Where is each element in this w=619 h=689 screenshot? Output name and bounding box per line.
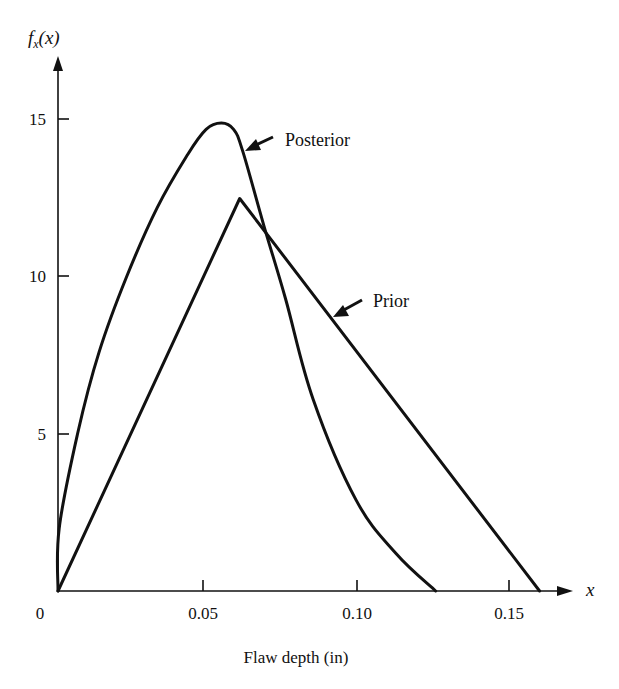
prior-label: Prior bbox=[373, 291, 409, 311]
y-tick-label-5: 5 bbox=[38, 425, 47, 444]
y-axis-arrow-icon bbox=[53, 56, 63, 71]
posterior-label: Posterior bbox=[285, 130, 350, 150]
x-axis-title: Flaw depth (in) bbox=[244, 648, 349, 667]
x-tick-label-0.10: 0.10 bbox=[342, 604, 372, 623]
prior-annotation: Prior bbox=[333, 291, 409, 317]
origin-label: 0 bbox=[36, 604, 45, 623]
posterior-annotation: Posterior bbox=[245, 130, 350, 151]
y-axis-title: fx(x) bbox=[28, 27, 60, 51]
posterior-arrow-icon bbox=[245, 139, 261, 151]
x-axis-symbol: x bbox=[585, 579, 595, 600]
prior-curve bbox=[58, 199, 540, 592]
x-tick-label-0.05: 0.05 bbox=[188, 604, 218, 623]
y-tick-label-15: 15 bbox=[29, 110, 46, 129]
pdf-chart: fx(x) 15 10 5 0 0.05 0.10 0.15 x Flaw de… bbox=[0, 0, 619, 689]
posterior-curve bbox=[57, 123, 435, 591]
y-tick-label-10: 10 bbox=[29, 267, 46, 286]
x-tick-label-0.15: 0.15 bbox=[494, 604, 524, 623]
x-axis-arrow-icon bbox=[557, 586, 573, 596]
